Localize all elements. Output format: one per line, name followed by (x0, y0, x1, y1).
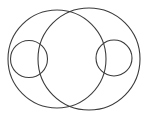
circles-diagram (0, 0, 146, 118)
figure-container (0, 0, 146, 118)
diagram-background (0, 0, 146, 118)
